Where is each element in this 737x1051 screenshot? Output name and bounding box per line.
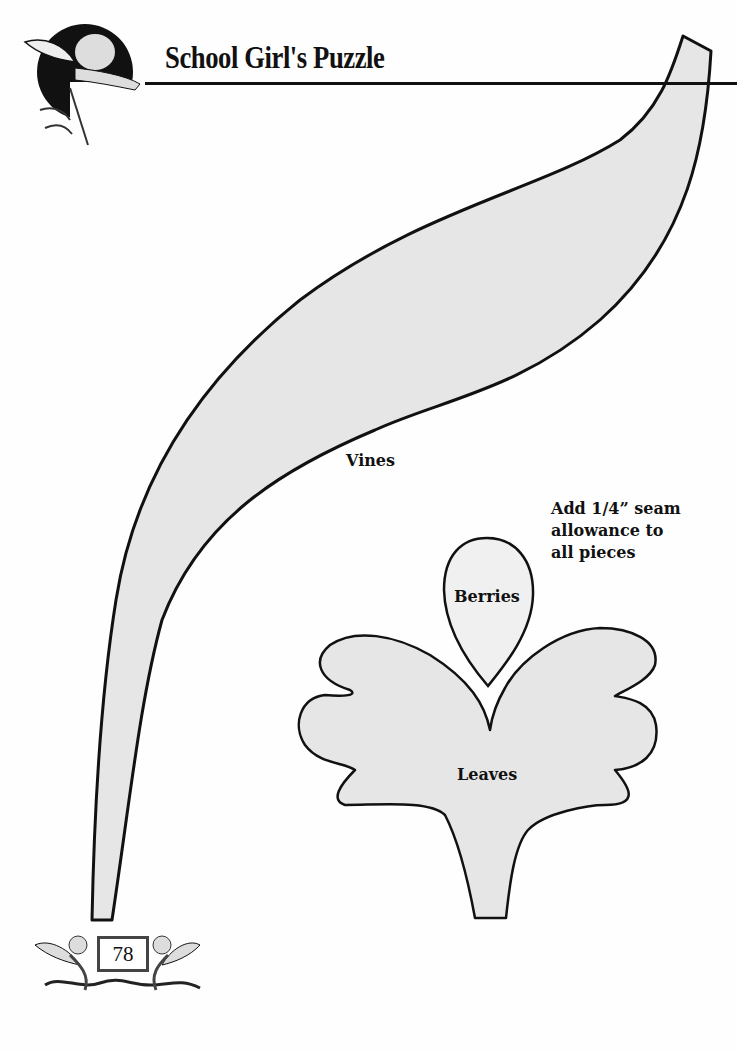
note-line: allowance to xyxy=(551,520,681,542)
page-number: 78 xyxy=(97,936,149,972)
title-underline xyxy=(145,82,737,85)
note-line: all pieces xyxy=(551,542,681,564)
leaves-label: Leaves xyxy=(457,765,517,784)
berries-label: Berries xyxy=(454,587,520,606)
vines-label: Vines xyxy=(346,451,395,470)
cherub-emblem-icon xyxy=(25,24,145,145)
pattern-page: School Girl's Puzzle Vines Berries Leave… xyxy=(0,0,737,1051)
note-line: Add 1/4” seam xyxy=(551,498,681,520)
seam-allowance-note: Add 1/4” seam allowance to all pieces xyxy=(551,498,681,564)
page-title: School Girl's Puzzle xyxy=(165,40,384,76)
berries-piece xyxy=(444,538,533,686)
